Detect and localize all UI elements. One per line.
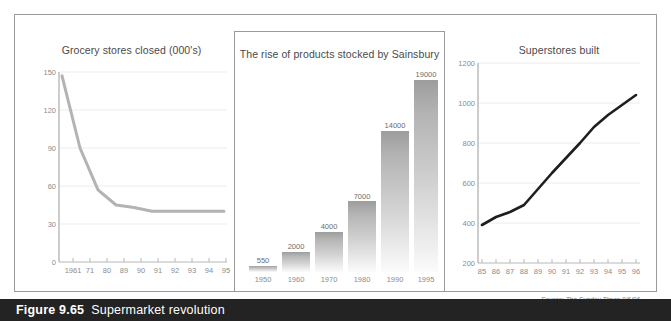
x-tick-label-91: 91: [562, 267, 570, 276]
y-tick-label-90: 90: [30, 144, 56, 153]
figure-caption: Figure 9.65 Supermarket revolution: [0, 303, 225, 317]
bar-1980: [348, 201, 376, 272]
bar-1970: [315, 232, 343, 272]
bar-value-1995: 19000: [416, 70, 437, 79]
x-tick-label-92: 92: [171, 266, 179, 275]
y-tick-label-1000: 1000: [447, 99, 475, 108]
x-tick-label-96: 96: [632, 267, 640, 276]
plot-area-superstores: [478, 63, 640, 263]
x-tick-label-80: 80: [103, 266, 111, 275]
x-tick-label-94: 94: [205, 266, 213, 275]
bar-value-1950: 550: [257, 256, 270, 265]
y-tick-label-30: 30: [30, 220, 56, 229]
x-tick-label-93: 93: [590, 267, 598, 276]
bar-value-1980: 7000: [354, 192, 371, 201]
bar-1950: [249, 266, 277, 272]
x-tick-label-89: 89: [120, 266, 128, 275]
chart-title-superstores: Superstores built: [447, 44, 671, 56]
x-tick-label-90: 90: [137, 266, 145, 275]
y-tick-label-60: 60: [30, 182, 56, 191]
x-tick-label-93: 93: [188, 266, 196, 275]
plot-area-sainsbury: [243, 68, 438, 272]
x-tick-label-95: 95: [618, 267, 626, 276]
bar-value-1960: 2000: [288, 242, 305, 251]
bar-category-1980: 1980: [354, 275, 371, 284]
chart-superstores-built: Superstores built 1200 1000 800 600 400 …: [447, 30, 671, 306]
chart-products-stocked-sainsbury: The rise of products stocked by Sainsbur…: [234, 31, 445, 292]
bar-category-1950: 1950: [255, 275, 272, 284]
x-tick-label-91: 91: [154, 266, 162, 275]
x-tick-label-90: 90: [548, 267, 556, 276]
bar-category-1960: 1960: [288, 275, 305, 284]
x-tick-label-86: 86: [492, 267, 500, 276]
chart-title-grocery: Grocery stores closed (000's): [30, 44, 233, 56]
chart-grocery-stores-closed: Grocery stores closed (000's) 150 120 90…: [30, 30, 233, 306]
figure-supermarket-revolution: Grocery stores closed (000's) 150 120 90…: [0, 0, 671, 321]
y-tick-label-1200: 1200: [447, 59, 475, 68]
bar-category-1970: 1970: [321, 275, 338, 284]
y-tick-label-0: 0: [30, 258, 56, 267]
bar-category-1995: 1995: [418, 275, 435, 284]
data-series-grocery-stores-closed: [62, 76, 224, 212]
figure-caption-text: Supermarket revolution: [91, 303, 225, 317]
x-tick-label-87: 87: [506, 267, 514, 276]
bar-1995: [414, 80, 438, 272]
x-tick-label-95: 95: [222, 266, 230, 275]
x-tick-label-88: 88: [520, 267, 528, 276]
y-tick-label-150: 150: [30, 68, 56, 77]
x-tick-label-71: 71: [86, 266, 94, 275]
x-tick-label-85: 85: [478, 267, 486, 276]
y-tick-label-600: 600: [447, 179, 475, 188]
bar-value-1990: 14000: [385, 121, 406, 130]
plot-area-grocery: [59, 72, 227, 262]
chart-title-sainsbury: The rise of products stocked by Sainsbur…: [235, 48, 444, 60]
y-tick-label-400: 400: [447, 219, 475, 228]
x-tick-label-94: 94: [604, 267, 612, 276]
y-tick-label-200: 200: [447, 259, 475, 268]
data-series-superstores-built: [482, 95, 636, 225]
bar-1990: [381, 131, 409, 272]
x-tick-label-92: 92: [576, 267, 584, 276]
x-tick-label-1961: 1961: [65, 266, 82, 275]
figure-caption-number: Figure 9.65: [16, 303, 84, 317]
x-tick-label-89: 89: [534, 267, 542, 276]
bar-category-1990: 1990: [387, 275, 404, 284]
bar-value-1970: 4000: [321, 222, 338, 231]
figure-caption-bar: Figure 9.65 Supermarket revolution: [0, 299, 671, 321]
y-tick-label-120: 120: [30, 106, 56, 115]
bar-1960: [282, 252, 310, 272]
figure-outer-frame: Grocery stores closed (000's) 150 120 90…: [14, 14, 657, 292]
y-tick-label-800: 800: [447, 139, 475, 148]
